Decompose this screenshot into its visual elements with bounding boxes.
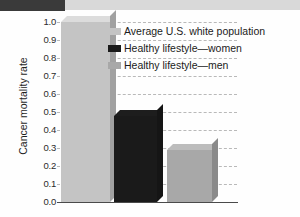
- legend-swatch: [108, 45, 121, 52]
- bar-front-face: [167, 150, 212, 202]
- bar: [114, 110, 157, 202]
- bar: [167, 144, 212, 202]
- legend-item: Healthy lifestyle—women: [108, 41, 294, 56]
- legend-label: Healthy lifestyle—men: [124, 60, 228, 71]
- y-tick-label: 0.1: [22, 179, 56, 189]
- legend-swatch: [108, 62, 121, 69]
- y-tick-label: 0.0: [22, 197, 56, 207]
- y-tick-label: 1.0: [22, 17, 56, 27]
- bar: [61, 16, 110, 202]
- bar-side-face: [157, 104, 163, 202]
- y-axis-title: Cancer mortality rate: [17, 36, 29, 176]
- legend-label: Healthy lifestyle—women: [124, 43, 242, 54]
- x-axis-line: [57, 202, 238, 203]
- legend-item: Healthy lifestyle—men: [108, 58, 294, 73]
- bar-front-face: [114, 116, 157, 202]
- chart-legend: Average U.S. white populationHealthy lif…: [108, 24, 294, 75]
- legend-label: Average U.S. white population: [124, 26, 265, 37]
- bar-side-face: [212, 138, 218, 202]
- legend-swatch: [108, 28, 121, 35]
- legend-item: Average U.S. white population: [108, 24, 294, 39]
- chart-figure: 1.00.90.80.70.60.50.40.30.20.10.0 Cancer…: [0, 0, 300, 217]
- bar-front-face: [61, 22, 110, 202]
- banner-light-block: [65, 0, 300, 10]
